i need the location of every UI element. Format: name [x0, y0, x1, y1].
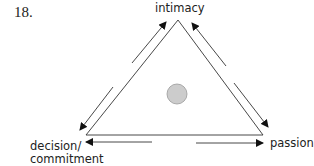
center-circle [167, 84, 187, 104]
label-passion: passion [270, 137, 314, 150]
triangle-outline [86, 20, 263, 135]
label-intimacy: intimacy [155, 2, 205, 15]
arrow-to-intimacy-right [192, 23, 226, 66]
arrow-to-passion-right [234, 83, 268, 127]
label-commitment: commitment [30, 153, 104, 166]
label-decision-commitment: decision/ commitment [30, 140, 104, 166]
arrow-to-decision-left [80, 87, 113, 130]
